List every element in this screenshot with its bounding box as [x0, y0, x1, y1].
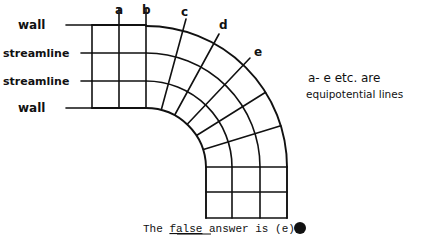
answer-suffix: answer is (e): [202, 223, 294, 235]
label-a: a: [115, 3, 123, 17]
answer-text: The false answer is (e): [143, 223, 295, 235]
label-d: d: [219, 18, 228, 32]
label-e: e: [254, 45, 262, 59]
note-line-2: equipotential lines: [306, 88, 403, 100]
wall-inner-arc: [146, 108, 206, 167]
equipotential-e: [188, 58, 250, 124]
equipotential-f: [197, 92, 266, 135]
note-line-1: a- e etc. are: [308, 71, 380, 85]
flow-net-diagram: wall streamline streamline wall: [0, 0, 428, 237]
flow-net-grid: [66, 8, 287, 218]
label-streamline-1: streamline: [3, 47, 69, 60]
equipotential-g: [203, 126, 280, 150]
label-wall-bottom: wall: [18, 101, 45, 115]
label-c: c: [181, 5, 188, 19]
label-streamline-2: streamline: [3, 75, 69, 88]
label-b: b: [142, 3, 151, 17]
streamline-2-arc: [146, 81, 232, 167]
equipotential-c: [162, 19, 187, 109]
filled-circle-icon: [294, 222, 306, 234]
label-wall-top: wall: [18, 18, 45, 32]
answer-prefix: The: [143, 223, 169, 235]
answer-underlined: false: [169, 223, 202, 235]
